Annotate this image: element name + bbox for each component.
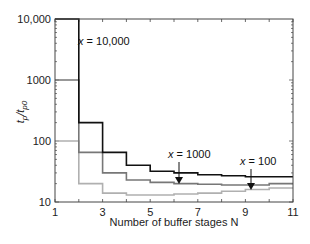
svg-text:1: 1: [52, 206, 58, 218]
chart-canvas: 135791110100100010,000 Number of buffer …: [0, 0, 310, 244]
svg-text:tp/tp0: tp/tp0: [14, 100, 29, 123]
annotations: x = 10,000x = 1000x = 100: [77, 35, 276, 190]
svg-text:x = 100: x = 100: [239, 155, 276, 167]
series-line: [55, 80, 293, 185]
svg-text:x = 10,000: x = 10,000: [77, 35, 130, 47]
svg-text:9: 9: [242, 206, 248, 218]
svg-text:x = 1000: x = 1000: [167, 148, 211, 160]
svg-text:3: 3: [100, 206, 106, 218]
svg-text:100: 100: [33, 135, 51, 147]
x-axis-label: Number of buffer stages N: [110, 216, 239, 228]
svg-text:10: 10: [39, 196, 51, 208]
svg-text:11: 11: [287, 206, 298, 218]
tick-labels: 135791110100100010,000: [17, 13, 298, 218]
svg-text:1000: 1000: [27, 74, 51, 86]
y-axis-label: tp/tp0: [14, 100, 29, 123]
svg-text:10,000: 10,000: [17, 13, 51, 25]
